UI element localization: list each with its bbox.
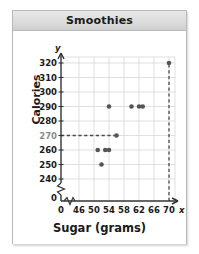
x-tick-46: 46 [73,205,85,215]
y-tick-240: 240 [39,174,57,184]
data-point [95,148,100,153]
chart-figure: Smoothies Calories Sugar (grams) 0240250… [12,10,187,244]
x-tick-62: 62 [133,205,145,215]
data-point [140,104,145,109]
x-tick-0: 0 [58,205,64,215]
x-tick-54: 54 [103,205,115,215]
data-point [99,162,104,167]
y-axis-symbol: y [55,43,61,53]
y-tick-0: 0 [51,193,57,203]
scatter-plot-svg: 0240250260270280290300310320 04650545862… [13,31,188,221]
data-points [95,61,171,167]
x-tick-labels: 046505458626670 [58,205,175,215]
y-tick-250: 250 [39,160,57,170]
x-tick-50: 50 [88,205,100,215]
y-tick-290: 290 [39,102,57,112]
vertical-gridlines [79,57,175,201]
horizontal-gridlines [61,57,175,179]
guide-lines [61,63,169,201]
y-tick-280: 280 [39,116,57,126]
chart-title-bar: Smoothies [13,11,186,31]
y-tick-270: 270 [39,131,57,141]
data-point [129,104,134,109]
y-tick-320: 320 [39,58,57,68]
x-tick-66: 66 [148,205,160,215]
data-point [107,104,112,109]
x-axis-label: Sugar (grams) [13,221,186,235]
x-tick-70: 70 [163,205,175,215]
plot-area: Calories Sugar (grams) 02402502602702802… [13,31,186,244]
data-point [167,61,172,66]
page-title: Smoothies [66,14,133,27]
y-tick-labels: 0240250260270280290300310320 [39,58,63,203]
data-point [107,148,112,153]
x-axis-symbol: x [178,205,185,215]
x-tick-58: 58 [118,205,130,215]
y-axis-break-icon [58,183,65,195]
y-tick-310: 310 [39,73,57,83]
y-tick-260: 260 [39,145,57,155]
data-point [114,133,119,138]
y-tick-300: 300 [39,87,57,97]
